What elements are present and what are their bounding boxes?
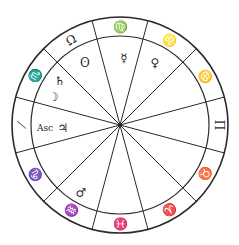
zodiac-wheel: [0, 0, 239, 245]
house-spoke-line: [120, 125, 196, 201]
sign-sagittarius-icon: ⟋: [16, 121, 28, 129]
planet-jupiter-icon: ♃: [58, 122, 69, 134]
sign-pisces-icon: ♓: [113, 218, 128, 230]
planet-mars-icon: ♂: [76, 187, 87, 199]
planet-mercury-icon: ☿: [120, 52, 127, 64]
planet-sun-icon: ʘ: [80, 57, 90, 69]
center-dot: [118, 123, 122, 127]
ascendant-label: Asc: [37, 124, 53, 133]
planet-moon-icon: ☽: [48, 91, 59, 103]
sign-gemini-icon: Π: [213, 120, 225, 130]
planet-saturn-icon: ♄: [55, 75, 66, 87]
planet-venus-icon: ♀: [151, 57, 160, 69]
sign-virgo-icon: ♍: [113, 21, 128, 33]
